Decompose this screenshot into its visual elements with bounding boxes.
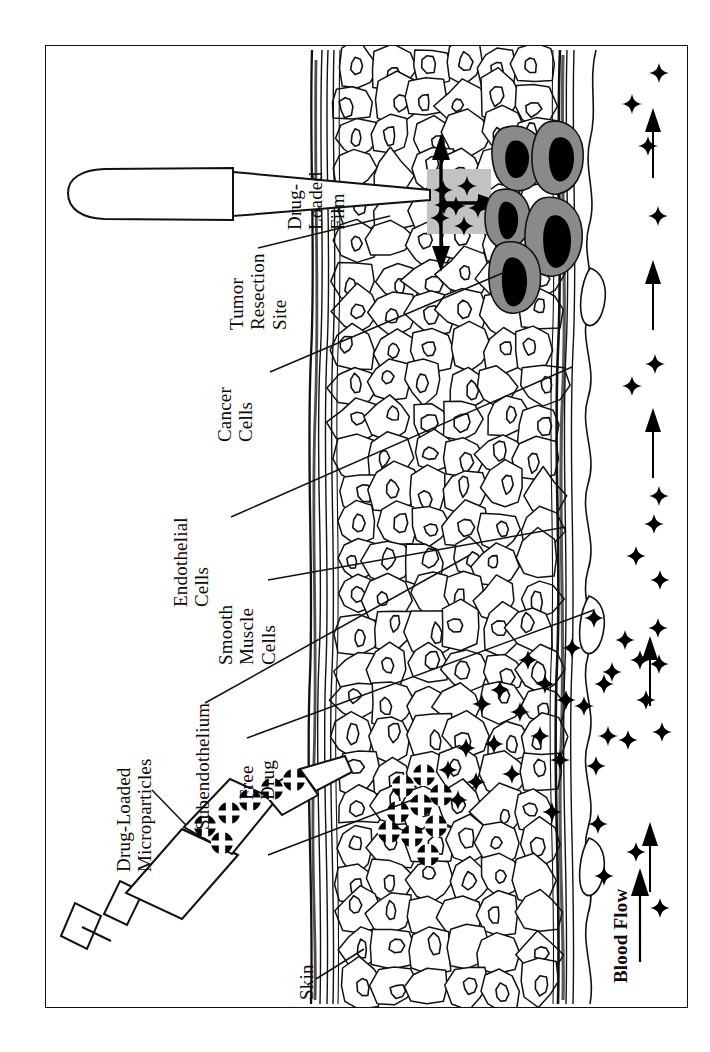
cell-nucleus xyxy=(448,619,463,632)
label-skin: Skin xyxy=(296,964,317,1000)
cell-nucleus xyxy=(454,414,470,433)
cell-nucleus xyxy=(455,661,470,679)
label-cancer-cells: Cancer Cells xyxy=(214,387,257,442)
cell-nucleus xyxy=(389,939,405,953)
label-drug-loaded-microparticles: Drug-Loaded Microparticles xyxy=(113,758,156,872)
cell-nucleus xyxy=(423,866,436,879)
cell-nucleus xyxy=(417,374,429,392)
label-endothelial-cells: Endothelial Cells xyxy=(170,517,213,607)
cell-nucleus xyxy=(534,759,546,777)
figure-canvas: Drug- Loaded Film Tumor Resection Site C… xyxy=(0,0,710,1052)
cell-nucleus xyxy=(489,556,498,568)
cell-nucleus xyxy=(357,979,369,996)
cell-nucleus xyxy=(384,875,394,892)
cell-nucleus xyxy=(538,418,552,436)
blood-flow-arrow xyxy=(645,260,661,330)
cancer-cell xyxy=(489,242,541,313)
cancer-cell xyxy=(532,121,583,194)
label-drug-loaded-film: Drug- Loaded Film xyxy=(284,172,348,230)
tissue-cell xyxy=(333,87,373,119)
cell-nucleus xyxy=(419,95,429,111)
tissue-cell xyxy=(409,927,451,975)
cell-nucleus xyxy=(525,58,536,73)
cell-nucleus xyxy=(507,736,517,753)
cell-nucleus xyxy=(357,939,366,958)
cancer-cell xyxy=(485,189,530,248)
diagram-artwork xyxy=(0,0,710,1052)
cell-nucleus xyxy=(350,801,365,817)
cell-nucleus xyxy=(355,630,365,647)
blood-flow-indicator xyxy=(631,868,649,962)
cell-nucleus xyxy=(394,514,408,533)
label-subendothelium: Subendothelium xyxy=(192,703,213,830)
blood-flow-arrow xyxy=(645,408,661,478)
lumen-wall xyxy=(580,50,606,1004)
label-tumor-resection-site: Tumor Resection Site xyxy=(226,253,290,330)
label-blood-flow: Blood Flow xyxy=(610,889,631,983)
cell-nucleus xyxy=(489,907,499,923)
label-smooth-muscle-cells: Smooth Muscle Cells xyxy=(215,605,279,665)
cancer-cells xyxy=(485,121,583,313)
label-free-drug: Free Drug xyxy=(236,760,279,800)
cell-nucleus xyxy=(500,342,511,354)
cell-nucleus xyxy=(460,266,470,280)
cell-nucleus xyxy=(388,343,399,358)
cell-nucleus xyxy=(422,56,436,74)
cell-nucleus xyxy=(425,652,439,669)
blood-flow-arrow xyxy=(642,822,658,892)
